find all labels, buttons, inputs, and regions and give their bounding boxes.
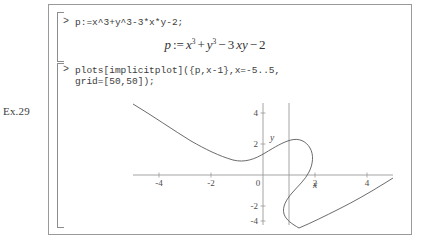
math-term-4: 2 <box>259 37 266 52</box>
y-tick-label-4: 4 <box>254 108 259 118</box>
x-axis-label: x <box>312 180 318 190</box>
math-term-3: xy <box>236 37 248 52</box>
y-tick-label--4: -4 <box>251 216 259 226</box>
math-coeff-3: 3 <box>228 37 235 52</box>
x-tick-label-0: 0 <box>256 178 261 188</box>
math-lhs: p <box>164 37 171 52</box>
implicit-plot-output: -4 -2 0 2 4 4 2 -2 -4 y x <box>129 97 397 229</box>
math-output-expression: p:=x3+y3−3xy−2 <box>49 37 411 53</box>
curve-implicit-cubic-upper <box>133 104 313 228</box>
y-axis-label: y <box>269 133 275 143</box>
math-op-3: − <box>248 37 259 52</box>
exercise-label: Ex.29 <box>3 105 30 117</box>
prompt-caret-icon-2: > <box>63 64 69 75</box>
x-tick-label-4: 4 <box>365 178 370 188</box>
math-op-1: + <box>195 37 206 52</box>
plot-canvas: -4 -2 0 2 4 4 2 -2 -4 y x <box>129 97 397 229</box>
math-term-1: x3 <box>186 37 196 52</box>
x-tick-label--4: -4 <box>155 178 163 188</box>
y-tick-label-2: 2 <box>254 139 259 149</box>
math-assign-operator: := <box>171 37 186 52</box>
maple-input-implicitplot-line-2[interactable]: grid=[50,50]); <box>75 76 155 88</box>
math-term-2: y3 <box>207 37 217 52</box>
x-tick-label--2: -2 <box>207 178 215 188</box>
maple-input-assignment[interactable]: p:=x^3+y^3-3*x*y-2; <box>75 17 183 29</box>
y-tick-label--2: -2 <box>251 201 259 211</box>
prompt-caret-icon-1: > <box>63 16 69 27</box>
execution-group-bracket-implicitplot[interactable] <box>57 63 64 228</box>
math-op-2: − <box>216 37 227 52</box>
maple-worksheet-frame: > p:=x^3+y^3-3*x*y-2; p:=x3+y3−3xy−2 > p… <box>48 4 412 235</box>
